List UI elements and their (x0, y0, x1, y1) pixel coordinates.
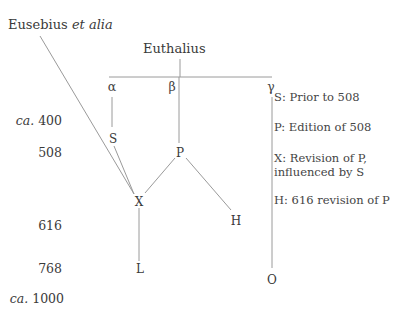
date-value: 616 (38, 218, 62, 233)
date-value: 768 (38, 261, 62, 276)
date-prefix: ca. (16, 113, 34, 128)
date-ca-1000: ca. 1000 (4, 292, 64, 306)
p-h-line (186, 158, 231, 210)
date-508: 508 (2, 146, 62, 160)
node-h: H (231, 214, 241, 228)
date-value: 1000 (32, 291, 64, 306)
node-p: P (176, 146, 184, 160)
date-616: 616 (2, 219, 62, 233)
eusebius-label: Eusebius et alia (8, 18, 113, 32)
legend-x: X: Revision of P, influenced by S (274, 151, 367, 179)
node-o: O (267, 273, 277, 287)
node-l: L (136, 262, 144, 276)
s-x-line (114, 146, 134, 194)
date-prefix: ca. (10, 291, 28, 306)
date-768: 768 (2, 262, 62, 276)
euthalius-label: Euthalius (143, 42, 206, 56)
branch-beta: β (168, 80, 175, 94)
branch-alpha: α (108, 80, 116, 94)
legend-s: S: Prior to 508 (274, 90, 360, 104)
date-value: 400 (38, 113, 62, 128)
node-x: X (135, 195, 144, 209)
p-x-line (145, 158, 175, 193)
node-s: S (109, 132, 117, 146)
date-value: 508 (38, 145, 62, 160)
eusebius-suffix: et alia (72, 17, 113, 32)
legend-h: H: 616 revision of P (274, 193, 390, 207)
legend-p: P: Edition of 508 (274, 120, 371, 134)
legend-x-line2: influenced by S (274, 165, 367, 179)
legend-x-line1: X: Revision of P, (274, 151, 367, 165)
eusebius-name: Eusebius (8, 17, 68, 32)
date-ca-400: ca. 400 (2, 114, 62, 128)
